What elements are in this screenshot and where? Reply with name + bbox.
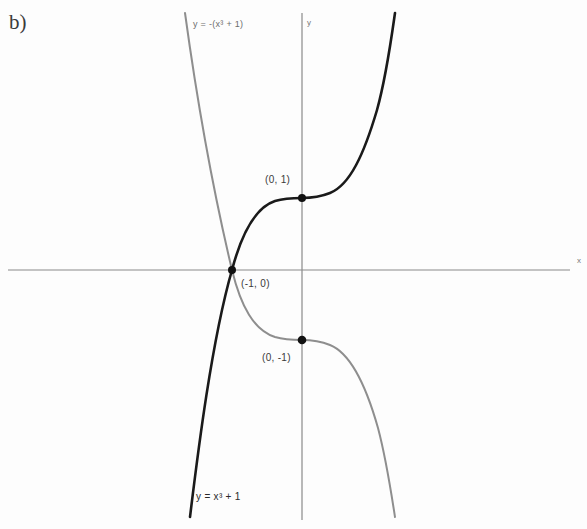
point-label-0-neg1: (0, -1)	[262, 352, 291, 363]
figure-panel: b) y = -(x³ + 1) y = x³ + 1 (0, 1) (-1, …	[0, 0, 587, 529]
plot-canvas	[0, 0, 587, 529]
y-axis-label: y	[307, 18, 311, 27]
point-label-0-1: (0, 1)	[265, 174, 290, 185]
point-marker-neg1-0	[228, 266, 236, 274]
curve-positive-cubic	[190, 13, 395, 517]
point-marker-0-neg1	[298, 336, 307, 345]
curve-black-equation-label: y = x³ + 1	[196, 491, 241, 502]
curve-negative-cubic	[185, 13, 395, 517]
point-label-neg1-0: (-1, 0)	[241, 278, 270, 289]
point-marker-0-1	[298, 194, 306, 202]
x-axis-label: x	[577, 256, 581, 265]
curve-gray-equation-label: y = -(x³ + 1)	[193, 19, 243, 29]
